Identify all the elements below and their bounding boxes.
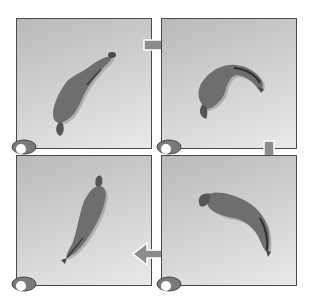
horse-icon: [17, 156, 153, 287]
hoof-icon: [11, 139, 37, 155]
hoof-icon: [156, 139, 182, 155]
panel-4: [161, 155, 297, 286]
horse-icon: [17, 19, 153, 150]
panel-2: [161, 18, 297, 149]
hoof-icon: [156, 276, 182, 292]
horse-icon: [162, 156, 298, 287]
panel-3: [16, 155, 152, 286]
horse-icon: [162, 19, 298, 150]
panel-1: [16, 18, 152, 149]
hoof-icon: [11, 276, 37, 292]
